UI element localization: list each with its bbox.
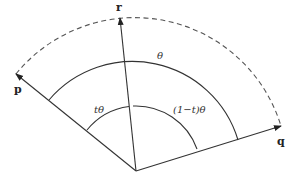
label-t-theta: tθ	[94, 104, 104, 115]
label-r: r	[116, 1, 122, 14]
label-q: q	[277, 135, 285, 148]
label-p: p	[14, 83, 22, 96]
outer-dashed-arc	[16, 18, 281, 126]
label-one-minus-t-theta: (1−t)θ	[173, 104, 206, 115]
label-theta: θ	[157, 50, 163, 61]
vector-p	[16, 74, 136, 171]
vector-r	[120, 18, 136, 171]
slerp-diagram: p r q θ tθ (1−t)θ	[0, 0, 296, 180]
theta-arc	[49, 61, 238, 140]
vector-q	[136, 126, 281, 171]
